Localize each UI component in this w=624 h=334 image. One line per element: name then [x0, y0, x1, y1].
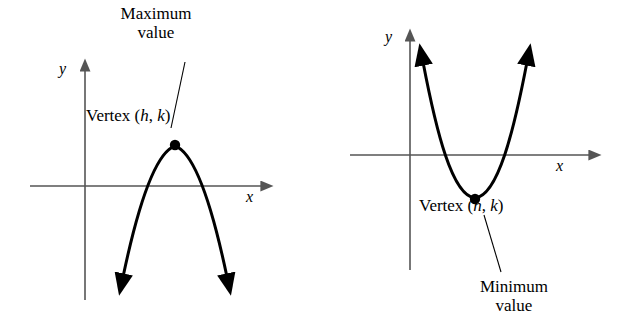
vertex-label-h: h: [140, 106, 149, 125]
parabola-right-branch: [175, 146, 227, 277]
vertex-label-comma: ,: [482, 196, 491, 215]
vertex-label-maximum: Vertex (h, k): [86, 106, 171, 125]
minimum-value-callout-line1: Minimum: [459, 277, 569, 296]
y-axis-label: y: [59, 60, 66, 78]
parabola-left-branch: [123, 146, 175, 277]
maximum-value-callout-line1: Maximum: [101, 4, 211, 23]
vertex-label-minimum: Vertex (h, k): [419, 196, 504, 215]
panel-maximum: Maximum value Vertex (h, k) y x: [0, 0, 312, 334]
x-axis-label: x: [246, 188, 253, 206]
vertex-label-prefix: Vertex (: [419, 196, 473, 215]
vertex-label-k: k: [490, 196, 498, 215]
y-axis-label: y: [385, 28, 392, 46]
maximum-value-callout-line2: value: [101, 23, 211, 42]
minimum-value-callout-line2: value: [459, 296, 569, 315]
parabola-hidden-guide: [124, 146, 226, 294]
parabola-vertex-figure: Maximum value Vertex (h, k) y x: [0, 0, 624, 334]
vertex-label-h: h: [473, 196, 482, 215]
parabola-right-branch: [475, 62, 527, 198]
parabola-left-branch: [423, 62, 475, 198]
maximum-value-callout: Maximum value: [101, 4, 211, 42]
callout-leader-line: [171, 62, 185, 128]
vertex-label-prefix: Vertex (: [86, 106, 140, 125]
callout-leader-line: [484, 215, 501, 272]
panel-maximum-graphic: [0, 0, 312, 334]
vertex-label-suffix: ): [165, 106, 171, 125]
vertex-label-k: k: [157, 106, 165, 125]
vertex-label-comma: ,: [149, 106, 158, 125]
x-axis-label: x: [556, 157, 563, 175]
vertex-point-dot: [170, 140, 180, 150]
vertex-label-suffix: ): [498, 196, 504, 215]
panel-minimum: Vertex (h, k) Minimum value y x: [312, 0, 624, 334]
minimum-value-callout: Minimum value: [459, 277, 569, 315]
